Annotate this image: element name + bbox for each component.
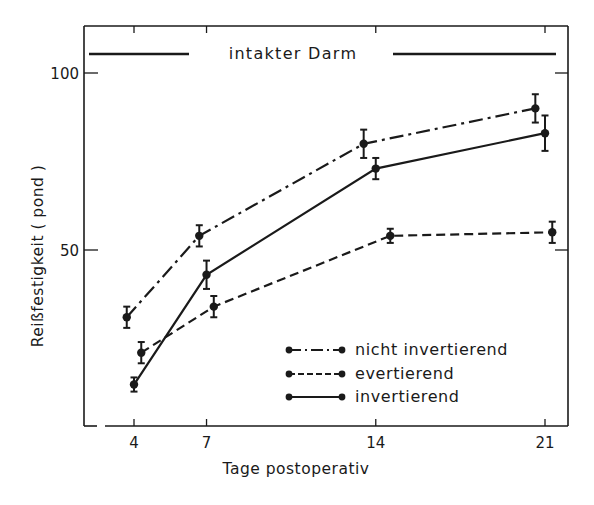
x-tick-label: 4 — [129, 434, 139, 452]
legend-label: invertierend — [355, 387, 460, 406]
legend-marker — [339, 371, 346, 378]
y-tick-label: 100 — [50, 65, 79, 83]
legend-marker — [339, 347, 346, 354]
legend-marker — [286, 394, 293, 401]
legend-marker — [339, 394, 346, 401]
data-point — [531, 104, 539, 112]
series-line — [127, 108, 536, 317]
data-point — [202, 271, 210, 279]
band-label: intakter Darm — [229, 44, 358, 63]
data-point — [130, 380, 138, 388]
x-tick-label: 14 — [366, 434, 385, 452]
series-line — [141, 232, 552, 352]
data-point — [386, 232, 394, 240]
legend-marker — [286, 371, 293, 378]
x-tick-label: 7 — [202, 434, 212, 452]
legend-item: evertierend — [286, 364, 455, 383]
data-point — [137, 348, 145, 356]
tick-labels: 47142150100 — [50, 65, 554, 452]
x-axis-title: Tage postoperativ — [222, 460, 370, 478]
data-point — [123, 313, 131, 321]
axis-ticks — [84, 26, 568, 426]
intact-intestine-band: intakter Darm — [89, 44, 556, 63]
y-axis-title: Reißfestigkeit ( pond ) — [29, 165, 47, 348]
data-point — [548, 228, 556, 236]
data-point — [359, 140, 367, 148]
series-nicht-invertierend — [123, 94, 540, 328]
legend-item: invertierend — [286, 387, 460, 406]
legend-label: evertierend — [355, 364, 454, 383]
data-point — [372, 164, 380, 172]
legend-marker — [286, 347, 293, 354]
legend-item: nicht invertierend — [286, 340, 508, 359]
data-point — [195, 232, 203, 240]
plot-frame — [84, 26, 568, 426]
data-point — [541, 129, 549, 137]
legend-label: nicht invertierend — [355, 340, 508, 359]
data-point — [210, 302, 218, 310]
x-tick-label: 21 — [535, 434, 554, 452]
tensile-strength-chart: 47142150100 intakter Darm Tage postopera… — [0, 0, 594, 505]
y-tick-label: 50 — [60, 242, 79, 260]
legend: nicht invertierendevertierendinvertieren… — [286, 340, 508, 406]
